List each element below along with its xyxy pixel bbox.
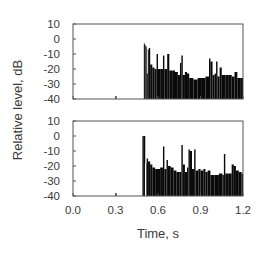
impulse-bar [160,168,163,197]
x-tick-label: 0.6 [150,204,166,216]
x-tick-label: 1.2 [235,204,251,216]
impulse-bar [208,171,211,197]
impulse-bar [222,175,223,196]
impulse-bar [178,75,180,99]
impulse-bar [155,169,158,196]
y-tick-label: 10 [47,115,60,127]
impulse-bar [167,160,168,196]
impulse-bar [201,171,204,197]
impulse-bar [154,69,156,99]
impulse-bar [209,59,210,100]
impulse-bar [174,171,177,197]
impulse-bar [232,77,235,100]
impulse-bar [181,145,182,196]
impulse-bar [145,45,146,99]
impulse-bar [185,172,187,196]
impulse-bar [205,77,209,100]
impulse-bar [198,78,202,99]
impulse-bar [152,168,155,197]
impulse-bar [164,69,167,99]
y-tick-label: -40 [43,93,60,105]
impulse-bar [168,166,171,196]
impulse-bar [187,74,189,100]
impulse-bar [202,78,206,99]
y-axis-label: Relative level, dB [10,60,25,160]
y-tick-label: 0 [54,33,60,45]
impulse-bar [185,72,187,99]
impulse-bar [146,47,147,100]
y-tick-label: 0 [54,130,60,142]
impulse-bar [193,80,197,100]
impulse-bar [215,74,216,100]
impulse-bar [169,71,172,100]
impulse-bar [222,75,226,99]
impulse-bar [232,165,234,197]
impulse-bar [150,165,152,197]
gap-line [145,163,146,196]
impulse-bar [150,65,152,100]
impulse-bar [229,75,232,99]
impulse-bars [116,136,244,196]
y-tick-label: -40 [43,190,60,202]
impulse-bar [234,166,236,196]
y-tick-label: -20 [43,160,60,172]
impulse-bar [142,136,143,196]
impulse-bar [167,54,169,99]
y-tick-label: -10 [43,48,60,60]
impulse-bar [194,150,195,197]
impulse-bar [163,56,164,100]
impulse-bar [164,169,166,196]
y-tick-label: -20 [43,63,60,75]
impulse-bar [236,171,239,197]
impulse-bar [224,154,225,196]
impulse-bar [237,78,241,99]
impulse-bar [147,159,148,197]
impulse-bar [210,62,212,100]
impulse-bar [192,169,194,196]
x-tick-label: 0.3 [108,204,124,216]
impulse-bar [157,54,158,99]
bottom-plot-panel: 100-10-20-30-400.00.30.60.91.2 [43,115,251,216]
impulse-bar [225,75,229,99]
impulse-bar [152,68,154,100]
impulse-bar [220,68,222,100]
impulse-bar [215,175,219,196]
impulse-bar [210,175,214,196]
impulse-bar [187,168,188,197]
impulse-bar [183,75,185,99]
impulse-bar [176,172,179,196]
impulse-bar [147,74,148,100]
y-tick-label: 10 [47,18,60,30]
impulse-response-figure: 100-10-20-30-40 100-10-20-30-400.00.30.6… [0,0,265,256]
top-plot-panel: 100-10-20-30-40 [43,18,243,105]
impulse-bar [158,169,160,196]
impulse-bar [198,169,200,196]
impulse-bar [158,69,161,99]
impulse-bar [149,48,150,99]
impulse-bar [163,147,164,197]
x-axis-label: Time, s [137,226,180,241]
impulse-bar [203,169,205,196]
impulse-bar [213,75,215,99]
impulse-bar [188,150,189,197]
impulse-bar [189,78,193,99]
impulse-bar [148,50,149,100]
impulse-bar [205,172,207,196]
y-tick-label: -30 [43,175,60,187]
impulse-bar [148,162,150,197]
impulse-bar [172,71,175,100]
x-tick-label: 0.0 [65,204,81,216]
impulse-bar [171,168,174,197]
impulse-bar [225,174,229,197]
impulse-bar [161,69,163,99]
impulse-bar [175,72,178,99]
impulse-bar [216,62,217,100]
x-tick-label: 0.9 [193,204,209,216]
impulse-bar [218,77,220,100]
impulse-bar [229,174,232,197]
impulse-bars [116,44,244,100]
impulse-bar [219,174,223,197]
impulse-bar [179,172,181,196]
impulse-bar [180,63,181,99]
impulse-bar [196,171,199,197]
